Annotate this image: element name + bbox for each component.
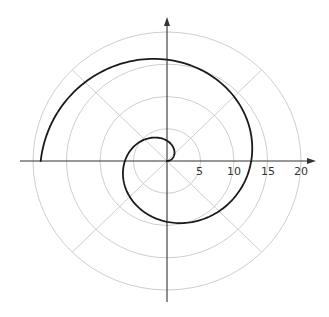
grid-ray-225 [72, 161, 167, 252]
polar-chart: 5 10 15 20 [0, 0, 329, 317]
tick-label-15: 15 [261, 165, 275, 178]
tick-label-20: 20 [294, 165, 308, 178]
radial-tick-labels: 5 10 15 20 [196, 165, 308, 178]
tick-label-10: 10 [227, 165, 241, 178]
tick-label-5: 5 [196, 165, 203, 178]
y-axis-arrow-icon [164, 17, 170, 26]
grid-ray-135 [72, 70, 167, 161]
grid-ray-45 [167, 70, 262, 161]
x-axis-arrow-icon [307, 158, 316, 164]
